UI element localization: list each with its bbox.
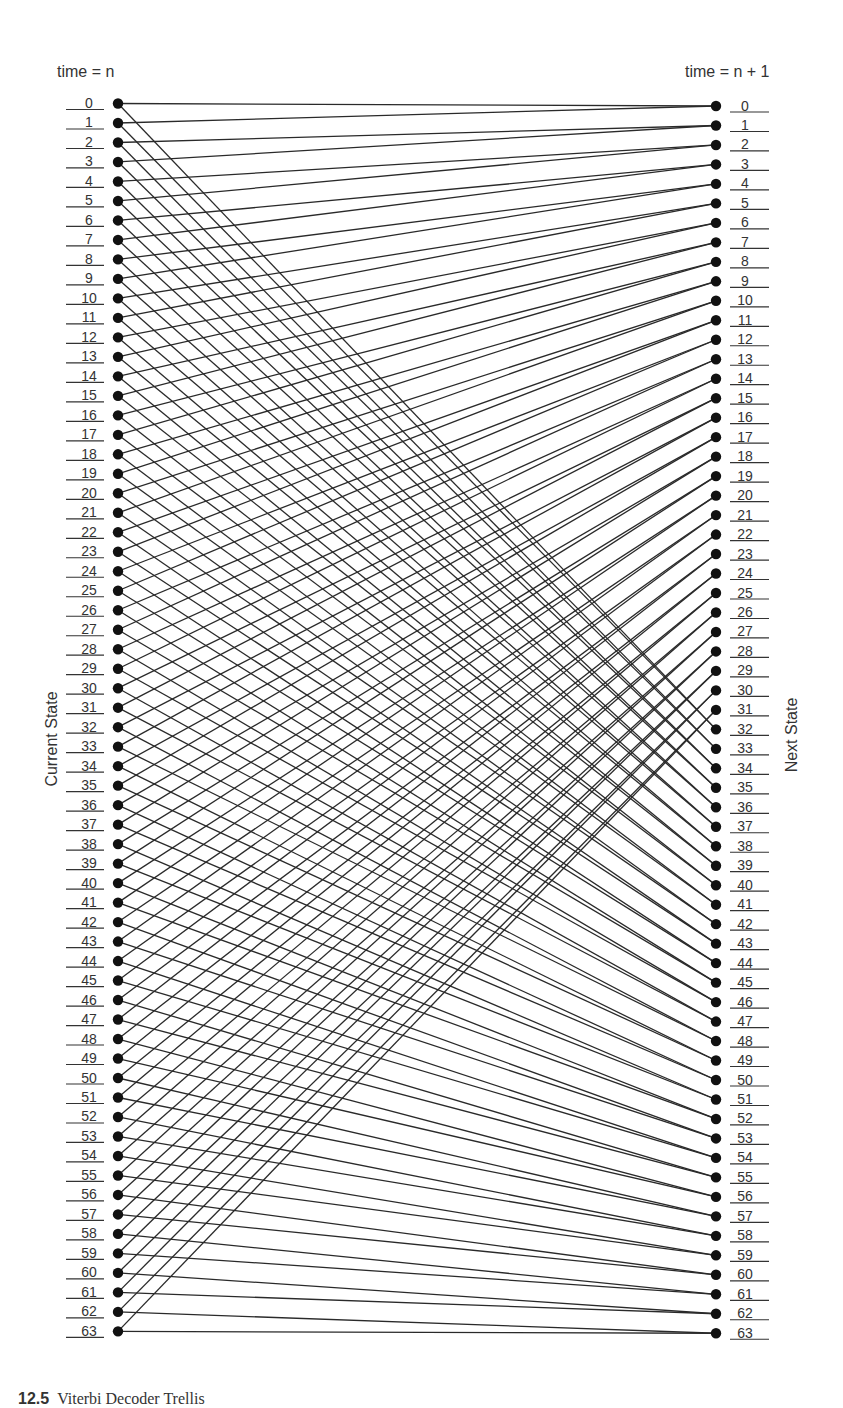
next-state-label: 38 <box>737 838 753 854</box>
current-state-label: 49 <box>81 1050 97 1066</box>
next-state-label: 46 <box>737 994 753 1010</box>
transition-edge <box>118 301 716 513</box>
next-state-label: 2 <box>741 136 749 152</box>
current-state-label: 36 <box>81 797 97 813</box>
current-state-label: 20 <box>81 485 97 501</box>
current-state-label: 0 <box>85 95 93 111</box>
current-state-nodes <box>113 98 123 1336</box>
next-state-label: 45 <box>737 974 753 990</box>
next-state-label: 52 <box>737 1110 753 1126</box>
next-state-node <box>711 958 721 968</box>
next-state-node <box>711 276 721 286</box>
next-state-node <box>711 977 721 987</box>
transition-edge <box>118 574 716 1040</box>
next-state-node <box>711 802 721 812</box>
current-state-label: 3 <box>85 153 93 169</box>
current-state-node <box>113 176 123 186</box>
current-state-label: 8 <box>85 251 93 267</box>
current-state-labels: 0123456789101112131415161718192021222324… <box>66 95 104 1339</box>
current-state-node <box>113 449 123 459</box>
current-state-node <box>113 1209 123 1219</box>
next-state-node <box>711 1055 721 1065</box>
current-state-label: 58 <box>81 1225 97 1241</box>
next-state-label: 55 <box>737 1169 753 1185</box>
next-state-labels: 0123456789101112131415161718192021222324… <box>730 98 769 1341</box>
next-state-node <box>711 412 721 422</box>
next-state-label: 58 <box>737 1227 753 1243</box>
next-state-label: 5 <box>741 195 749 211</box>
transition-edge <box>118 1039 716 1197</box>
current-state-label: 35 <box>81 777 97 793</box>
current-state-node <box>113 741 123 751</box>
next-state-label: 25 <box>737 585 753 601</box>
current-state-node <box>113 1190 123 1200</box>
next-state-node <box>711 471 721 481</box>
next-state-label: 24 <box>737 565 753 581</box>
transition-edge <box>118 805 716 1080</box>
next-state-node <box>711 783 721 793</box>
next-state-label: 44 <box>737 955 753 971</box>
current-state-node <box>113 1014 123 1024</box>
next-state-node <box>711 1211 721 1221</box>
current-state-node <box>113 508 123 518</box>
current-state-node <box>113 819 123 829</box>
current-state-label: 16 <box>81 407 97 423</box>
current-state-label: 39 <box>81 855 97 871</box>
transition-edge <box>118 203 716 317</box>
next-state-label: 53 <box>737 1130 753 1146</box>
current-state-label: 22 <box>81 524 97 540</box>
current-state-node <box>113 566 123 576</box>
current-state-label: 34 <box>81 758 97 774</box>
current-state-node <box>113 332 123 342</box>
transition-edge <box>118 1273 716 1314</box>
current-state-label: 48 <box>81 1031 97 1047</box>
transition-edge <box>118 1253 716 1294</box>
current-state-node <box>113 235 123 245</box>
next-state-node <box>711 568 721 578</box>
current-state-label: 50 <box>81 1070 97 1086</box>
transition-edge <box>118 262 716 416</box>
current-state-label: 57 <box>81 1206 97 1222</box>
next-state-label: 27 <box>737 623 753 639</box>
next-state-label: 43 <box>737 935 753 951</box>
next-state-node <box>711 335 721 345</box>
current-state-label: 21 <box>81 504 97 520</box>
next-state-label: 31 <box>737 701 753 717</box>
next-state-node <box>711 159 721 169</box>
transition-edge <box>118 242 716 376</box>
current-state-node <box>113 313 123 323</box>
current-state-label: 31 <box>81 699 97 715</box>
current-state-label: 38 <box>81 836 97 852</box>
current-state-label: 40 <box>81 875 97 891</box>
current-state-node <box>113 430 123 440</box>
current-state-node <box>113 1131 123 1141</box>
next-state-label: 10 <box>737 292 753 308</box>
transition-edge <box>118 320 716 551</box>
next-state-node <box>711 549 721 559</box>
transition-edge <box>118 262 716 435</box>
transition-edges <box>118 104 716 1334</box>
current-state-node <box>113 352 123 362</box>
next-state-node <box>711 101 721 111</box>
next-state-node <box>711 607 721 617</box>
next-state-label: 6 <box>741 214 749 230</box>
current-state-node <box>113 1112 123 1122</box>
transition-edge <box>118 1292 716 1313</box>
next-state-node <box>711 666 721 676</box>
caption-number: 12.5 <box>18 1390 49 1407</box>
transition-edge <box>118 104 716 730</box>
next-state-node <box>711 1309 721 1319</box>
current-state-label: 5 <box>85 192 93 208</box>
current-state-node <box>113 196 123 206</box>
current-state-node <box>113 547 123 557</box>
next-state-node <box>711 1133 721 1143</box>
next-state-label: 1 <box>741 117 749 133</box>
next-state-label: 15 <box>737 390 753 406</box>
current-state-label: 15 <box>81 387 97 403</box>
current-state-label: 54 <box>81 1147 97 1163</box>
next-state-label: 13 <box>737 351 753 367</box>
current-state-node <box>113 1229 123 1239</box>
current-state-node <box>113 1287 123 1297</box>
